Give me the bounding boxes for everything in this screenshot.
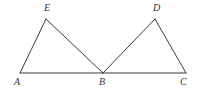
segment-AE [20,19,46,73]
geometry-figure: A B C E D [0,0,199,92]
vertex-label-e: E [44,3,50,13]
segment-BD [103,19,155,73]
vertex-label-b: B [99,77,105,87]
vertex-label-c: C [180,77,187,87]
vertex-label-a: A [14,77,20,87]
vertex-label-d: D [153,3,160,13]
segment-EB [46,19,103,73]
segment-DC [155,19,186,73]
